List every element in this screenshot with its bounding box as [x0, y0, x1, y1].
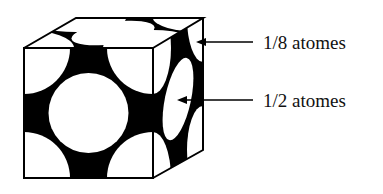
fcc-unit-cell-diagram: 1/8 atomes 1/2 atomes — [0, 0, 383, 194]
corner-atoms-label: 1/8 atomes — [263, 33, 346, 52]
arrow-corner-atoms — [196, 38, 253, 46]
face-atoms-label: 1/2 atomes — [263, 91, 346, 110]
